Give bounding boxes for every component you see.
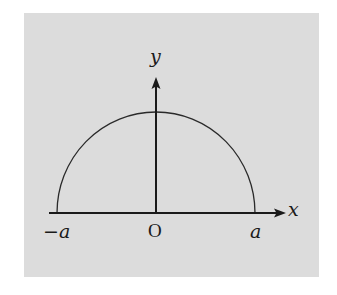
- y-axis-label: y: [150, 47, 161, 66]
- right-endpoint-label: a: [250, 222, 261, 241]
- origin-label: O: [148, 221, 162, 240]
- x-axis-label: x: [288, 200, 299, 219]
- left-endpoint-label: −a: [43, 222, 70, 241]
- semicircle-diagram: [0, 0, 337, 295]
